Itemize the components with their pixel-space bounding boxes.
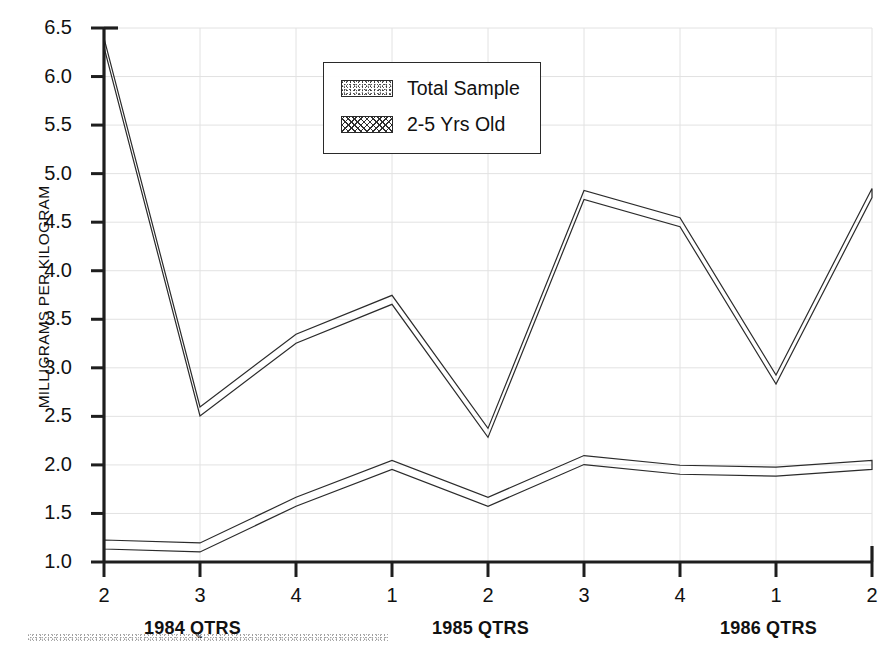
legend-swatch-total-sample: [341, 80, 393, 97]
legend-swatch-2-5-yrs-old: [341, 116, 393, 133]
x-tick-label: 3: [180, 584, 220, 607]
legend-label-total-sample: Total Sample: [407, 77, 520, 100]
legend-item-2-5-yrs-old: 2-5 Yrs Old: [341, 111, 505, 137]
x-tick-label: 1: [372, 584, 412, 607]
x-tick-label: 3: [564, 584, 604, 607]
x-group-label: 1986 QTRS: [720, 618, 817, 639]
x-tick-label: 1: [756, 584, 796, 607]
chart-legend: Total Sample 2-5 Yrs Old: [323, 62, 541, 154]
x-tick-label: 2: [84, 584, 124, 607]
x-tick-label: 4: [660, 584, 700, 607]
x-tick-label: 2: [852, 584, 889, 607]
x-tick-label: 4: [276, 584, 316, 607]
page-caption-artifact: [28, 634, 388, 642]
x-group-label: 1985 QTRS: [432, 618, 529, 639]
chart-figure: MILLIGRAMS PER KILOGRAM 1.01.52.02.53.03…: [0, 0, 889, 652]
legend-item-total-sample: Total Sample: [341, 75, 520, 101]
legend-label-2-5-yrs-old: 2-5 Yrs Old: [407, 113, 505, 136]
x-tick-label: 2: [468, 584, 508, 607]
